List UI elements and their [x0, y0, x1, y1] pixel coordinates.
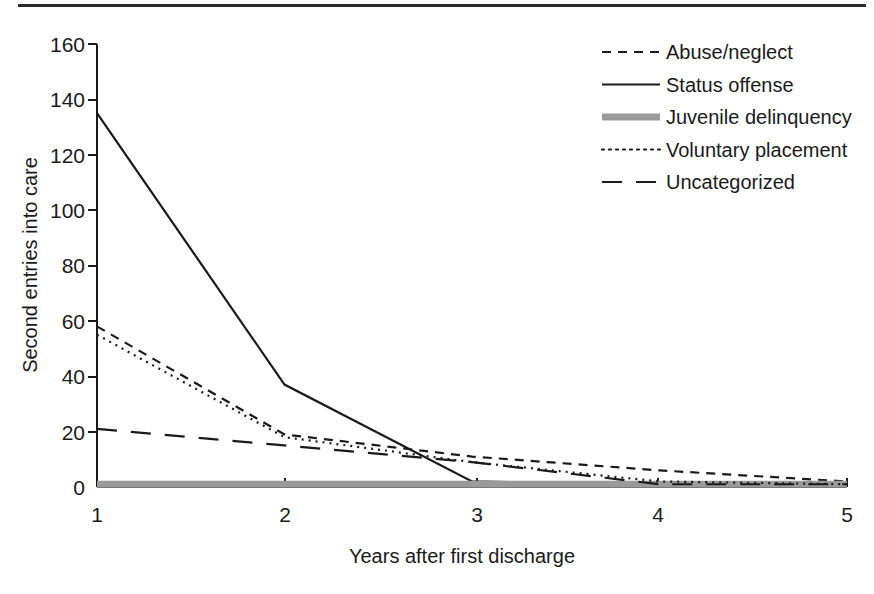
y-tick-label-120: 120	[50, 144, 85, 167]
legend-item-uncategorized[interactable]: Uncategorized	[602, 171, 795, 193]
x-tick-label-5: 5	[841, 503, 853, 526]
legend-label: Abuse/neglect	[666, 41, 793, 63]
legend-label: Uncategorized	[666, 171, 795, 193]
series-line-status-offense	[97, 113, 847, 484]
x-tick-label-4: 4	[652, 503, 664, 526]
y-tick-marks	[88, 44, 97, 432]
y-tick-label-60: 60	[62, 310, 85, 333]
y-tick-label-160: 160	[50, 33, 85, 56]
legend-item-juvenile-delinquency[interactable]: Juvenile delinquency	[602, 106, 852, 128]
y-tick-label-140: 140	[50, 88, 85, 111]
x-tick-label-2: 2	[279, 503, 291, 526]
x-tick-label-3: 3	[471, 503, 483, 526]
y-tick-label-100: 100	[50, 199, 85, 222]
y-tick-label-20: 20	[62, 421, 85, 444]
series-line-abuse-neglect	[97, 326, 847, 481]
figure-container: Second entries into care 160 140 120 100…	[0, 0, 874, 594]
y-tick-label-40: 40	[62, 365, 85, 388]
y-axis-title: Second entries into care	[19, 157, 41, 373]
legend-label: Juvenile delinquency	[666, 106, 852, 128]
y-tick-label-0: 0	[73, 476, 85, 499]
legend-item-status-offense[interactable]: Status offense	[602, 74, 794, 96]
y-tick-label-80: 80	[62, 254, 85, 277]
line-chart: Second entries into care 160 140 120 100…	[0, 0, 874, 594]
legend-label: Voluntary placement	[666, 139, 848, 161]
legend-item-voluntary-placement[interactable]: Voluntary placement	[602, 139, 848, 161]
series-layer	[97, 113, 847, 484]
legend-label: Status offense	[666, 74, 794, 96]
x-axis-title: Years after first discharge	[349, 545, 575, 567]
x-tick-label-1: 1	[91, 503, 103, 526]
legend-item-abuse-neglect[interactable]: Abuse/neglect	[602, 41, 793, 63]
chart-legend: Abuse/neglectStatus offenseJuvenile deli…	[602, 41, 852, 193]
